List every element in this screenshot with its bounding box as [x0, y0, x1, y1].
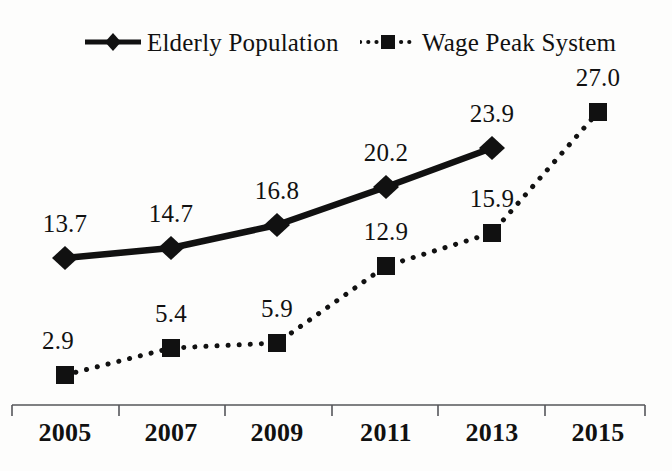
data-point-marker: [479, 136, 505, 160]
data-point-marker: [377, 257, 395, 275]
data-label: 14.7: [149, 201, 194, 226]
data-point-marker: [589, 103, 607, 121]
data-point-marker: [162, 339, 180, 357]
data-label: 27.0: [576, 65, 621, 90]
plot-svg: [0, 0, 672, 471]
data-label: 12.9: [364, 219, 409, 244]
x-axis: [12, 405, 645, 416]
x-tick-label-2015: 2015: [571, 420, 624, 446]
data-label: 20.2: [364, 140, 409, 165]
data-label: 16.8: [255, 178, 300, 203]
data-point-marker: [264, 213, 290, 237]
x-tick-label-2009: 2009: [250, 420, 303, 446]
data-point-marker: [268, 334, 286, 352]
x-tick-label-2013: 2013: [465, 420, 518, 446]
x-tick-label-2011: 2011: [360, 420, 412, 446]
x-tick-label-2005: 2005: [38, 420, 91, 446]
data-point-marker: [483, 224, 501, 242]
data-label: 23.9: [470, 101, 515, 126]
series-wage-peak-system: [56, 103, 607, 384]
chart-container: Elderly Population Wage Peak System: [0, 0, 672, 471]
data-label: 15.9: [470, 186, 515, 211]
data-label: 5.9: [261, 296, 293, 321]
data-label: 13.7: [43, 211, 88, 236]
data-label: 5.4: [155, 301, 187, 326]
data-label: 2.9: [42, 328, 74, 353]
data-point-marker: [373, 175, 399, 199]
data-point-marker: [52, 246, 78, 270]
data-point-marker: [158, 236, 184, 260]
plot-area: 13.7 14.7 16.8 20.2 23.9 2.9 5.4 5.9 12.…: [0, 0, 672, 471]
x-tick-label-2007: 2007: [144, 420, 197, 446]
data-point-marker: [56, 366, 74, 384]
